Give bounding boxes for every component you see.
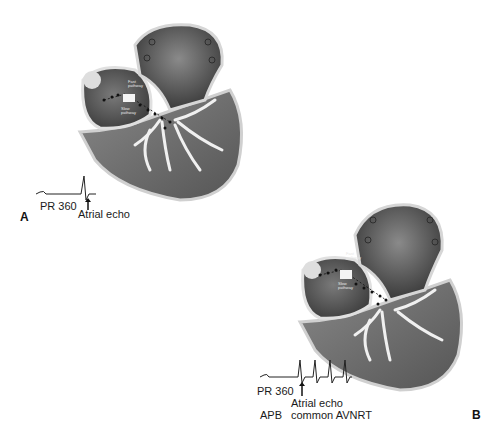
slow-pathway-label-a: Slow pathway bbox=[121, 107, 141, 115]
panel-letter-a: A bbox=[20, 210, 29, 224]
fast-pathway-label-a: Fast pathway bbox=[128, 80, 148, 88]
pr-interval-label-a: PR 360 bbox=[40, 200, 77, 212]
panel-b: Fast pathway Slow pathway PR 360 Atrial … bbox=[240, 190, 500, 424]
panel-a: Fast pathway Slow pathway PR 360 Atrial … bbox=[0, 0, 260, 220]
ecg-trace-b bbox=[260, 340, 370, 390]
panel-letter-b: B bbox=[472, 408, 481, 422]
common-avnrt-label-b: common AVNRT bbox=[291, 409, 372, 421]
fast-pathway-label-b: Fast pathway bbox=[346, 252, 366, 260]
slow-pathway-label-b: Slow pathway bbox=[338, 282, 358, 290]
apb-label-b: APB bbox=[260, 409, 282, 421]
atrial-echo-label-a: Atrial echo bbox=[78, 208, 130, 220]
pr-interval-label-b: PR 360 bbox=[257, 385, 294, 397]
heart-illustration-b bbox=[240, 190, 500, 360]
atrial-echo-label-b: Atrial echo bbox=[291, 397, 343, 409]
